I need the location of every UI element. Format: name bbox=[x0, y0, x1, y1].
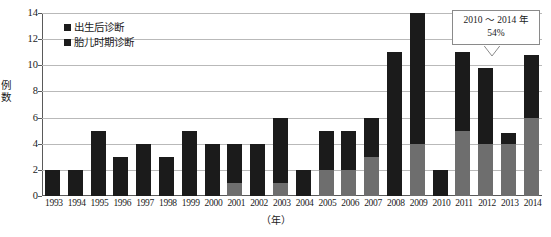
bar-column bbox=[433, 13, 448, 196]
bar-column bbox=[250, 13, 265, 196]
bar-column bbox=[387, 13, 402, 196]
bar-segment-postnatal bbox=[45, 170, 60, 196]
x-axis-tick-label: 2008 bbox=[387, 199, 402, 209]
x-axis-tick-label: 2007 bbox=[364, 199, 379, 209]
x-axis-ticks: 1993199419951996199719981999200020012002… bbox=[42, 199, 542, 209]
period-callout: 2010 ～ 2014 年 54% bbox=[452, 10, 540, 45]
bar-segment-fetal bbox=[319, 170, 334, 196]
x-axis-tick-label: 1996 bbox=[113, 199, 128, 209]
bar-segment-postnatal bbox=[387, 52, 402, 196]
bar-column bbox=[205, 13, 220, 196]
bar-segment-postnatal bbox=[227, 144, 242, 183]
bar-column bbox=[136, 13, 151, 196]
bar-segment-postnatal bbox=[113, 157, 128, 196]
x-axis-tick-label: 2009 bbox=[410, 199, 425, 209]
x-axis-label: （年） bbox=[0, 216, 551, 226]
bar-segment-postnatal bbox=[250, 144, 265, 196]
y-axis-tick-label: 10 bbox=[0, 60, 38, 71]
x-axis-tick-label: 2013 bbox=[501, 199, 516, 209]
y-axis-tick-label: 2 bbox=[0, 165, 38, 176]
bar-segment-postnatal bbox=[296, 170, 311, 196]
x-axis-tick-label: 1999 bbox=[182, 199, 197, 209]
bar-segment-postnatal bbox=[91, 131, 106, 196]
bar-segment-postnatal bbox=[319, 131, 334, 170]
bar-segment-fetal bbox=[524, 118, 539, 196]
y-axis-tick-label: 0 bbox=[0, 191, 38, 202]
bar-segment-postnatal bbox=[341, 131, 356, 170]
bar-segment-fetal bbox=[227, 183, 242, 196]
x-axis-tick-label: 1993 bbox=[45, 199, 60, 209]
bar-segment-postnatal bbox=[182, 131, 197, 196]
legend-item-postnatal: 出生后诊断 bbox=[64, 20, 134, 35]
stacked-bar-chart-figure: 例数 02468101214 1993199419951996199719981… bbox=[0, 0, 551, 237]
bar-column bbox=[319, 13, 334, 196]
bar-column bbox=[296, 13, 311, 196]
bar-segment-postnatal bbox=[455, 52, 470, 130]
bar-segment-postnatal bbox=[410, 13, 425, 144]
legend-label-postnatal: 出生后诊断 bbox=[74, 20, 124, 35]
y-axis-tick-label: 4 bbox=[0, 138, 38, 149]
bar-segment-fetal bbox=[410, 144, 425, 196]
bar-column bbox=[364, 13, 379, 196]
x-axis-tick-label: 2010 bbox=[433, 199, 448, 209]
x-axis-tick-label: 2000 bbox=[205, 199, 220, 209]
legend-item-fetal: 胎儿时期诊断 bbox=[64, 35, 134, 50]
bar-column bbox=[45, 13, 60, 196]
bar-segment-fetal bbox=[341, 170, 356, 196]
bar-segment-postnatal bbox=[524, 55, 539, 118]
bar-segment-fetal bbox=[273, 183, 288, 196]
bar-segment-fetal bbox=[364, 157, 379, 196]
bar-segment-postnatal bbox=[478, 68, 493, 144]
x-axis-tick-label: 1997 bbox=[136, 199, 151, 209]
x-axis-tick-label: 2014 bbox=[524, 199, 539, 209]
bar-segment-fetal bbox=[501, 144, 516, 196]
callout-line-1: 2010 ～ 2014 年 bbox=[455, 14, 537, 27]
legend-label-fetal: 胎儿时期诊断 bbox=[74, 35, 134, 50]
callout-line-2: 54% bbox=[455, 27, 537, 40]
bar-column bbox=[182, 13, 197, 196]
bar-segment-postnatal bbox=[205, 144, 220, 196]
bar-column bbox=[341, 13, 356, 196]
x-axis-tick-label: 2001 bbox=[227, 199, 242, 209]
x-axis-tick-label: 2003 bbox=[273, 199, 288, 209]
legend-swatch-icon-fetal bbox=[64, 39, 71, 46]
x-axis-tick-label: 2011 bbox=[455, 199, 470, 209]
x-axis-tick-label: 2005 bbox=[319, 199, 334, 209]
y-axis-tick-label: 6 bbox=[0, 112, 38, 123]
bar-segment-postnatal bbox=[136, 144, 151, 196]
y-axis-tick-mark bbox=[38, 196, 42, 197]
y-axis-tick-label: 14 bbox=[0, 8, 38, 19]
bar-segment-postnatal bbox=[159, 157, 174, 196]
bar-column bbox=[273, 13, 288, 196]
x-axis-tick-label: 1998 bbox=[159, 199, 174, 209]
y-axis-tick-label: 8 bbox=[0, 86, 38, 97]
x-axis-tick-label: 2004 bbox=[296, 199, 311, 209]
bar-column bbox=[227, 13, 242, 196]
bar-segment-postnatal bbox=[273, 118, 288, 183]
bar-segment-postnatal bbox=[364, 118, 379, 157]
bar-segment-fetal bbox=[455, 131, 470, 196]
bar-column bbox=[410, 13, 425, 196]
callout-pointer-icon bbox=[483, 45, 501, 57]
bar-segment-fetal bbox=[478, 144, 493, 196]
bar-segment-postnatal bbox=[433, 170, 448, 196]
x-axis-tick-label: 2002 bbox=[250, 199, 265, 209]
bar-segment-postnatal bbox=[68, 170, 83, 196]
x-axis-tick-label: 2006 bbox=[341, 199, 356, 209]
x-axis-tick-label: 2012 bbox=[478, 199, 493, 209]
bar-column bbox=[159, 13, 174, 196]
chart-legend: 出生后诊断 胎儿时期诊断 bbox=[64, 20, 134, 50]
legend-swatch-icon-postnatal bbox=[64, 24, 71, 31]
bar-segment-postnatal bbox=[501, 133, 516, 143]
y-axis-tick-label: 12 bbox=[0, 34, 38, 45]
x-axis-tick-label: 1995 bbox=[91, 199, 106, 209]
x-axis-tick-label: 1994 bbox=[68, 199, 83, 209]
